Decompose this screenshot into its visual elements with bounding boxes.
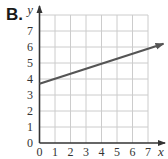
y-tick-label: 3 — [27, 88, 33, 102]
x-tick-label: 7 — [145, 145, 151, 159]
y-tick-label: 7 — [27, 24, 33, 38]
x-tick-label: 6 — [130, 145, 136, 159]
y-tick-label: 5 — [27, 56, 33, 70]
x-tick-label: 0 — [37, 145, 43, 159]
y-tick-label: 6 — [27, 40, 33, 54]
x-tick-label: 2 — [68, 145, 74, 159]
x-tick-label: 1 — [52, 145, 58, 159]
y-tick-label: 4 — [27, 72, 33, 86]
x-tick-label: 3 — [83, 145, 89, 159]
x-tick-label: 4 — [99, 145, 105, 159]
y-axis-label: y — [25, 2, 33, 17]
x-axis-label: x — [157, 144, 164, 159]
y-tick-label: 2 — [27, 104, 33, 118]
line-chart: 0123456701234567xy — [0, 0, 168, 159]
y-tick-label: 1 — [27, 120, 33, 134]
y-tick-label: 0 — [27, 136, 33, 150]
x-tick-label: 5 — [114, 145, 120, 159]
